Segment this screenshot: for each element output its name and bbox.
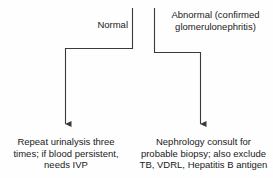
- outcome-text-abnormal: Nephrology consult for probable biopsy; …: [134, 136, 273, 171]
- branch-label-normal: Normal: [60, 19, 128, 31]
- outcome-text-normal: Repeat urinalysis three times; if blood …: [2, 136, 130, 171]
- branch-label-abnormal: Abnormal (confirmed glomerulonephritis): [158, 9, 273, 32]
- flowchart-canvas: Normal Abnormal (confirmed glomeruloneph…: [0, 0, 273, 178]
